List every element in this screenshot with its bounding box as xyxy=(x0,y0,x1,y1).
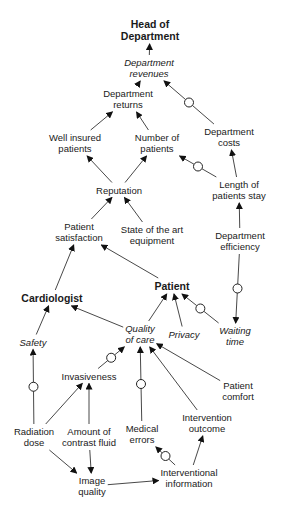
node-costs: Departmentcosts xyxy=(204,126,254,148)
node-equip: State of the artequipment xyxy=(121,224,183,246)
negative-influence-circle-icon xyxy=(29,382,38,391)
node-qoc: Qualityof care xyxy=(125,323,155,345)
value-network-diagram: Head ofDepartmentDepartmentrevenuesDepar… xyxy=(0,0,292,516)
node-rev: Departmentrevenues xyxy=(124,57,174,79)
edge-rad-to-img xyxy=(49,450,76,473)
negative-influence-circle-icon xyxy=(233,284,242,293)
negative-influence-circle-icon xyxy=(194,162,203,171)
node-head: Head ofDepartment xyxy=(121,18,179,42)
node-los: Length ofpatients stay xyxy=(212,179,265,201)
edge-comfort-to-qoc xyxy=(157,344,220,381)
edge-equip-to-rep xyxy=(125,198,143,223)
edge-img-to-interv_info xyxy=(108,481,159,485)
negative-influence-circle-icon xyxy=(196,304,205,313)
edge-rep-to-well xyxy=(87,156,112,183)
negative-influence-circle-icon xyxy=(137,380,146,389)
edge-qoc-to-cardio xyxy=(72,306,124,327)
node-eff: Departmentefficiency xyxy=(215,230,265,252)
edge-num-to-ret xyxy=(137,112,149,130)
node-interv_info: Interventionalinformation xyxy=(160,467,217,489)
edge-cardio-to-sat xyxy=(55,245,73,290)
node-contrast: Amount ofcontrast fluid xyxy=(62,426,116,448)
edge-contrast-to-img xyxy=(90,450,91,473)
node-well: Well insuredpatients xyxy=(49,132,101,154)
edge-qoc-to-patient xyxy=(149,294,167,321)
node-patient: Patient xyxy=(154,280,189,292)
edge-patient-to-sat xyxy=(101,245,158,278)
node-rep: Reputation xyxy=(96,185,142,196)
edge-los-to-costs xyxy=(231,150,236,177)
node-cardio: Cardiologist xyxy=(21,292,82,304)
node-sat: Patientsatisfaction xyxy=(55,221,103,243)
node-interv_out: Interventionoutcome xyxy=(182,412,232,434)
node-comfort: Patientcomfort xyxy=(222,380,254,402)
node-privacy: Privacy xyxy=(168,329,199,340)
node-img: Imagequality xyxy=(78,475,105,497)
node-rad: Radiationdose xyxy=(14,426,54,448)
node-num: Number ofpatients xyxy=(135,132,179,154)
edge-sat-to-rep xyxy=(91,198,111,220)
node-med: Medicalerrors xyxy=(126,423,159,445)
node-ret: Departmentreturns xyxy=(103,88,153,110)
edge-well-to-ret xyxy=(91,112,113,130)
edge-privacy-to-patient xyxy=(174,294,182,327)
node-inv: Invasiveness xyxy=(62,371,117,382)
negative-influence-circle-icon xyxy=(161,452,170,461)
node-wait: Waitingtime xyxy=(219,325,251,347)
negative-influence-circle-icon xyxy=(107,353,116,362)
negative-influence-circle-icon xyxy=(185,98,194,107)
edge-interv_info-to-interv_out xyxy=(193,436,202,465)
edge-rep-to-num xyxy=(125,156,146,183)
edge-rad-to-inv xyxy=(46,384,83,425)
node-safety: Safety xyxy=(20,337,47,348)
edge-safety-to-cardio xyxy=(36,306,48,335)
edge-interv_out-to-qoc xyxy=(150,347,197,410)
edge-ret-to-rev xyxy=(137,81,140,86)
